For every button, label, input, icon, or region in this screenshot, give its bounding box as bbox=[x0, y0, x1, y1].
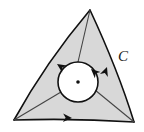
figure-container: C bbox=[0, 0, 144, 132]
center-dot-icon bbox=[76, 80, 80, 84]
curve-label-c: C bbox=[118, 49, 128, 64]
region-with-hole-diagram bbox=[0, 0, 144, 132]
